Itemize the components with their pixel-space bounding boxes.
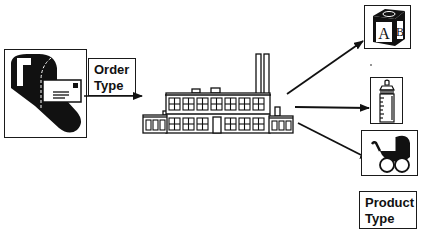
baby-carriage-panel [361,130,418,176]
block-letter-a: A [378,25,390,42]
toy-block-panel: A B [364,5,411,49]
product-type-label: Product Type [359,191,417,229]
baby-bottle-panel [370,77,403,124]
block-letter-b: B [396,25,404,39]
baby-carriage-icon [362,131,419,177]
baby-bottle-icon [371,78,404,125]
abc-block-icon: A B [365,6,412,50]
product-type-line2: Type [365,211,411,227]
product-type-line1: Product [365,195,411,211]
